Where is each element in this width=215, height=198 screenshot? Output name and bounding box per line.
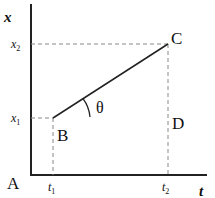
tick-x1: x1 [10,111,20,127]
tick-t2: t2 [162,180,169,196]
point-d-label: D [172,114,184,133]
angle-arc [83,99,90,117]
tick-t1: t1 [48,180,55,196]
x-axis-label: t [199,183,204,198]
point-c-label: C [171,29,182,48]
y-axis-label: x [3,9,12,25]
line-bc [53,44,168,118]
diagram-canvas: x t A x2 x1 t1 t2 B C D θ [0,0,215,198]
tick-x2: x2 [10,37,20,53]
point-b-label: B [57,126,68,145]
origin-label: A [7,174,20,193]
angle-theta-label: θ [96,99,104,116]
position-time-diagram: x t A x2 x1 t1 t2 B C D θ [0,0,215,198]
